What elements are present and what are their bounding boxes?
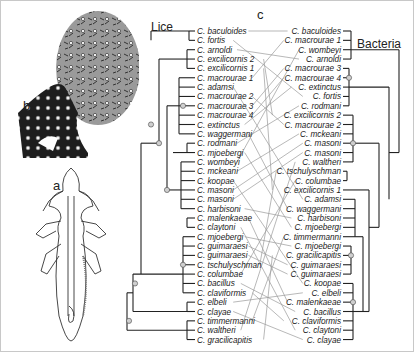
bacteria-taxon-label: C. gracilicapitis [286,251,341,260]
bacteria-taxon-label: C. mjoebergi [295,223,342,232]
lice-taxon-label: C. masoni [197,186,234,195]
bacteria-taxon-label: C. excilicornis 1 [284,186,341,195]
bacteria-taxon-label: C. rodmani [301,102,341,111]
lice-taxon-label: C. masoni [197,195,234,204]
bacteria-taxon-label: C. mjoebergi [295,242,342,251]
lice-taxon-label: C. clayae [197,308,232,317]
lice-taxon-label: C. malenkaeae [197,214,253,223]
bacteria-taxon-label: C. arnoldi [306,55,341,64]
bacteria-taxon-label: C. malenkaeae [286,298,342,307]
lice-taxon-label: C. baculoides [197,27,247,36]
lice-taxon-label: C. guimaraesi [197,251,248,260]
lice-taxon-label: C. mjoebergi [197,233,244,242]
lice-taxon-label: C. tschulyschman [197,261,262,270]
support-node [164,187,169,192]
bacteria-taxon-label: C. macrourae 4 [285,74,342,83]
bacteria-taxon-label: C. mckeani [300,130,341,139]
bacteria-taxon-label: C. fortis [313,92,341,101]
association-link [252,78,284,115]
lice-taxon-label: C. macrourae 3 [197,102,254,111]
lice-taxon-label: C. waggermani [197,130,252,139]
lice-taxon-label: C. waltheri [197,326,236,335]
association-link [252,237,284,321]
bacteria-taxon-label: C. guimaraesi [290,261,341,270]
bacteria-taxon-label: C. adamsi [304,195,341,204]
bacteria-taxon-label: C. macrourae 3 [285,64,342,73]
association-link [252,68,284,105]
bacteria-taxon-label: C. waggermani [286,205,341,214]
bacteria-taxon-label: C. koopae [304,279,342,288]
support-node [126,318,131,323]
bacteria-taxon-label: C. guimaraesi [290,270,341,279]
lice-taxon-label: C. wombeyi [197,158,240,167]
support-node [132,281,137,286]
lice-taxon-label: C. mjoebergi [197,149,244,158]
bacteria-taxon-label: C. wombeyi [298,46,341,55]
support-node [350,300,355,305]
bacteria-taxon-label: C. macrourae 1 [285,36,341,45]
figure-frame: b a Lice c Bacteria C. baculoidesC. fort… [0,0,414,352]
bacteria-taxon-label: C. macrourae 2 [285,121,342,130]
lice-taxon-label: C. koopae [197,177,235,186]
lice-taxon-label: C. guimaraesi [197,242,248,251]
tanglegram: C. baculoidesC. fortisC. arnoldiC. excil… [1,1,414,352]
lice-taxon-label: C. claviformis [197,289,246,298]
bacteria-taxon-label: C. extinctus [298,83,341,92]
bacteria-taxon-label: C. baculoides [291,27,341,36]
lice-taxon-label: C. columbae [197,270,243,279]
lice-taxon-label: C. mckeani [197,167,238,176]
lice-taxon-label: C. fortis [197,36,225,45]
lice-taxon-label: C. macrourae 2 [197,92,254,101]
lice-taxon-label: C. bacillus [197,279,235,288]
bacteria-taxon-label: C. waltheri [302,158,341,167]
lice-taxon-label: C. macrourae 1 [197,74,253,83]
bacteria-taxon-label: C. tschulyschman [276,167,341,176]
bacteria-taxon-label: C. claviformis [292,317,341,326]
lice-taxon-label: C. elbeli [197,298,227,307]
lice-taxon-label: C. extinctus [197,121,240,130]
bacteria-taxon-label: C. masoni [304,149,341,158]
bacteria-taxon-label: C. columbae [295,177,341,186]
support-node [346,75,351,80]
association-link [237,134,299,171]
lice-taxon-label: C. rodmani [197,139,237,148]
lice-taxon-label: C. timmermanni [197,317,255,326]
support-node [148,122,153,127]
bacteria-taxon-label: C. timmermanni [283,233,341,242]
lice-taxon-label: C. adamsi [197,83,234,92]
bacteria-taxon-label: C. harbisoni [297,214,341,223]
bacteria-taxon-label: C. claytoni [303,326,341,335]
bacteria-taxon-label: C. bacillus [303,308,341,317]
bacteria-taxon-label: C. elbeli [311,289,341,298]
support-node [180,103,185,108]
lice-taxon-label: C. macrourae 4 [197,111,254,120]
support-node [350,141,355,146]
lice-taxon-label: C. harbisoni [197,205,241,214]
support-node [156,141,161,146]
bacteria-taxon-label: C. masoni [304,139,341,148]
bacteria-taxon-label: C. clayae [307,336,342,345]
lice-taxon-label: C. gracilicapitis [197,336,252,345]
support-node [348,253,353,258]
support-node [180,262,185,267]
bacteria-taxon-label: C. excilicornis 2 [284,111,342,120]
lice-taxon-label: C. arnoldi [197,46,232,55]
lice-taxon-label: C. excilicornis 1 [197,64,254,73]
lice-taxon-label: C. claytoni [197,223,235,232]
lice-taxon-label: C. excilicornis 2 [197,55,255,64]
